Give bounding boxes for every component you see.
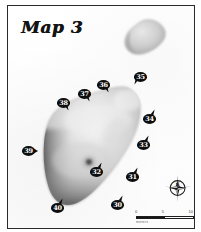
- map-figure: Map 3: [0, 0, 201, 232]
- marker-label: 35: [136, 73, 144, 80]
- svg-text:N: N: [176, 182, 180, 187]
- scale-bar-ticks: 0 5 10: [136, 209, 194, 215]
- marker-label: 31: [128, 173, 136, 180]
- map-marker-32[interactable]: 32: [90, 167, 103, 177]
- marker-label: 39: [24, 147, 32, 154]
- marker-bubble: 30: [111, 200, 124, 210]
- marker-label: 38: [59, 99, 67, 106]
- scale-bar-track: [136, 216, 194, 220]
- scale-bar-units: meters: [136, 220, 194, 224]
- marker-label: 33: [139, 141, 147, 148]
- scale-bar: 0 5 10 meters: [136, 209, 194, 227]
- marker-bubble: 40: [51, 203, 64, 213]
- marker-bubble: 31: [126, 172, 139, 182]
- marker-label: 37: [80, 90, 88, 97]
- marker-bubble: 38: [57, 98, 70, 108]
- marker-label: 34: [145, 115, 153, 122]
- map-marker-31[interactable]: 31: [126, 172, 139, 182]
- marker-bubble: 39: [22, 146, 35, 156]
- map-marker-38[interactable]: 38: [57, 98, 70, 108]
- map-marker-35[interactable]: 35: [134, 72, 147, 82]
- small-island: [116, 16, 172, 60]
- map-marker-37[interactable]: 37: [78, 89, 91, 99]
- marker-bubble: 33: [137, 140, 150, 150]
- map-marker-39[interactable]: 39: [22, 146, 35, 156]
- map-marker-30[interactable]: 30: [111, 200, 124, 210]
- marker-label: 40: [53, 204, 61, 211]
- marker-bubble: 32: [90, 167, 103, 177]
- scale-tick-0: 0: [135, 209, 137, 215]
- map-frame-border: Map 3: [7, 5, 195, 229]
- scale-tick-5: 5: [162, 209, 164, 215]
- marker-label: 30: [113, 201, 121, 208]
- page-title: Map 3: [21, 17, 83, 37]
- marker-bubble: 37: [78, 89, 91, 99]
- marker-bubble: 35: [134, 72, 147, 82]
- scale-tick-10: 10: [189, 209, 193, 215]
- marker-label: 36: [99, 81, 107, 88]
- map-marker-33[interactable]: 33: [137, 140, 150, 150]
- marker-bubble: 36: [97, 80, 110, 90]
- map-marker-34[interactable]: 34: [143, 114, 156, 124]
- map-marker-40[interactable]: 40: [51, 203, 64, 213]
- compass-rose-icon: N: [163, 173, 193, 203]
- marker-label: 32: [92, 168, 100, 175]
- marker-bubble: 34: [143, 114, 156, 124]
- map-marker-36[interactable]: 36: [97, 80, 110, 90]
